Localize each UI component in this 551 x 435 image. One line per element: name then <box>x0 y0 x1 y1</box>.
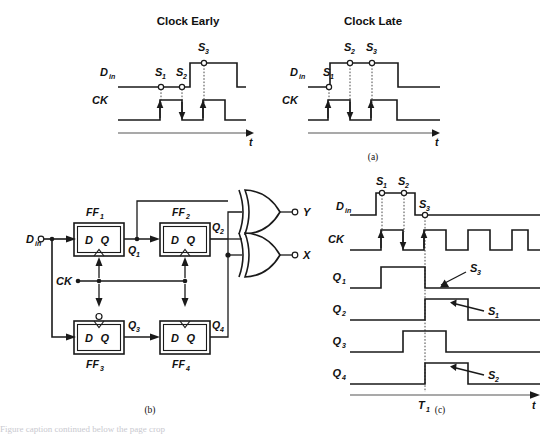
svg-text:Q: Q <box>332 367 341 379</box>
y-output-terminal <box>292 209 298 215</box>
panel-b-circuit: D in D Q FF 1 Q 1 <box>26 190 312 416</box>
svg-text:3: 3 <box>342 342 346 349</box>
svg-text:FF: FF <box>172 358 185 370</box>
svg-text:3: 3 <box>373 48 377 55</box>
svg-text:t: t <box>435 136 439 148</box>
q4-label: Q 4 <box>212 319 224 333</box>
svg-text:CK: CK <box>56 275 73 287</box>
clock-early-sample-labels: S 1 S 2 S 3 <box>155 41 209 80</box>
q1-arrow <box>150 235 160 242</box>
caption-a: (a) <box>368 152 379 163</box>
clock-early-sample-s1 <box>158 84 163 89</box>
svg-text:Q: Q <box>212 319 220 331</box>
svg-text:FF: FF <box>86 358 99 370</box>
y-output-label: Y <box>303 206 312 218</box>
svg-text:t: t <box>249 136 253 148</box>
panel-c-row-label-q3: Q 3 <box>332 335 346 349</box>
x-output-label: X <box>302 249 311 261</box>
clock-late-time-axis: t <box>308 129 440 148</box>
panel-c-sample-s3 <box>422 212 427 217</box>
clock-late-edge-arrows <box>325 100 375 120</box>
ff3-inversion-bubble-icon <box>96 314 102 320</box>
panel-c-row-label-ck: CK <box>328 233 345 245</box>
xor-gate-y: Y <box>239 190 312 234</box>
cropped-figure-caption: Figure caption continued below the page … <box>0 424 551 435</box>
clock-late-sample-s3 <box>369 60 374 65</box>
svg-text:FF: FF <box>172 206 185 218</box>
svg-text:1: 1 <box>495 312 499 319</box>
svg-text:3: 3 <box>477 269 481 276</box>
svg-text:D: D <box>171 234 179 246</box>
svg-text:2: 2 <box>182 73 187 80</box>
svg-text:Q: Q <box>128 244 136 256</box>
q3-label: Q 3 <box>128 319 140 333</box>
panel-c-t1-marker: T 1 <box>418 399 430 413</box>
svg-text:4: 4 <box>185 365 190 372</box>
svg-text:D: D <box>290 66 298 78</box>
svg-text:1: 1 <box>330 73 334 80</box>
clock-late-sample-s2 <box>347 60 352 65</box>
svg-text:3: 3 <box>100 365 104 372</box>
clock-early-sample-s2 <box>179 84 184 89</box>
svg-text:2: 2 <box>219 228 224 235</box>
svg-text:1: 1 <box>136 251 140 258</box>
panel-c-row-label-q2: Q 2 <box>332 303 346 317</box>
svg-text:1: 1 <box>162 73 166 80</box>
clock-late-title: Clock Late <box>344 15 402 27</box>
svg-text:t: t <box>532 399 536 411</box>
svg-text:Q: Q <box>332 303 341 315</box>
clock-late-din-label: D in <box>290 66 305 80</box>
panel-c-row-label-q1: Q 1 <box>332 271 346 285</box>
svg-text:Q: Q <box>100 234 109 246</box>
q1-label: Q 1 <box>128 244 140 258</box>
svg-text:1: 1 <box>426 406 430 413</box>
flipflop-ff2: D Q FF 2 <box>160 206 210 256</box>
caption-c: (c) <box>435 405 446 416</box>
svg-text:in: in <box>299 73 305 80</box>
svg-text:in: in <box>109 73 115 80</box>
panel-c-ck-edge-arrows <box>378 230 428 250</box>
x-output-terminal <box>292 252 298 258</box>
svg-text:2: 2 <box>341 310 346 317</box>
panel-a-left: Clock Early D in CK S 1 S 2 <box>92 15 254 148</box>
clock-early-title: Clock Early <box>157 15 220 27</box>
svg-text:3: 3 <box>426 205 430 212</box>
svg-text:1: 1 <box>342 278 346 285</box>
panel-c-sample-s1 <box>379 190 384 195</box>
clock-early-edge-arrows <box>157 100 207 120</box>
panel-c-timing: D in CK Q 1 Q 2 Q 3 Q 4 S 1 S <box>328 175 540 416</box>
panel-c-ck-waveform <box>350 230 540 250</box>
clock-early-sample-s3 <box>201 60 206 65</box>
svg-text:Q: Q <box>332 335 341 347</box>
svg-text:FF: FF <box>86 206 99 218</box>
clock-bus: CK <box>56 257 188 307</box>
ff2-name: FF 2 <box>172 206 190 220</box>
clock-early-din-label: D in <box>100 66 115 80</box>
svg-text:Q: Q <box>186 332 195 344</box>
svg-text:4: 4 <box>219 326 224 333</box>
panel-c-q2-waveform <box>350 299 540 320</box>
flipflop-ff3: D Q FF 3 <box>74 314 124 373</box>
q2-label: Q 2 <box>212 221 224 235</box>
svg-text:Q: Q <box>332 271 341 283</box>
svg-text:D: D <box>171 332 179 344</box>
panel-c-q3-waveform <box>350 331 540 352</box>
ff4-name: FF 4 <box>172 358 190 372</box>
flipflop-ff4: D Q FF 4 <box>160 321 210 372</box>
panel-c-annotation-s2: S 2 <box>450 363 499 383</box>
figure-root: Clock Early D in CK S 1 S 2 <box>0 0 551 435</box>
svg-text:D: D <box>26 233 34 245</box>
ff3-name: FF 3 <box>86 358 104 372</box>
svg-text:Q: Q <box>100 332 109 344</box>
panel-c-row-label-q4: Q 4 <box>332 367 346 381</box>
din-branch-to-ff3 <box>52 239 73 337</box>
svg-text:1: 1 <box>383 182 387 189</box>
clock-late-sample-s1 <box>326 84 331 89</box>
svg-text:1: 1 <box>100 213 104 220</box>
q3-arrow <box>150 333 160 340</box>
svg-text:D: D <box>336 200 344 212</box>
clock-late-ck-label: CK <box>282 94 299 106</box>
panel-a-right: Clock Late D in CK S 1 S 2 S 3 <box>282 15 440 163</box>
svg-text:2: 2 <box>494 376 499 383</box>
svg-text:3: 3 <box>205 48 209 55</box>
